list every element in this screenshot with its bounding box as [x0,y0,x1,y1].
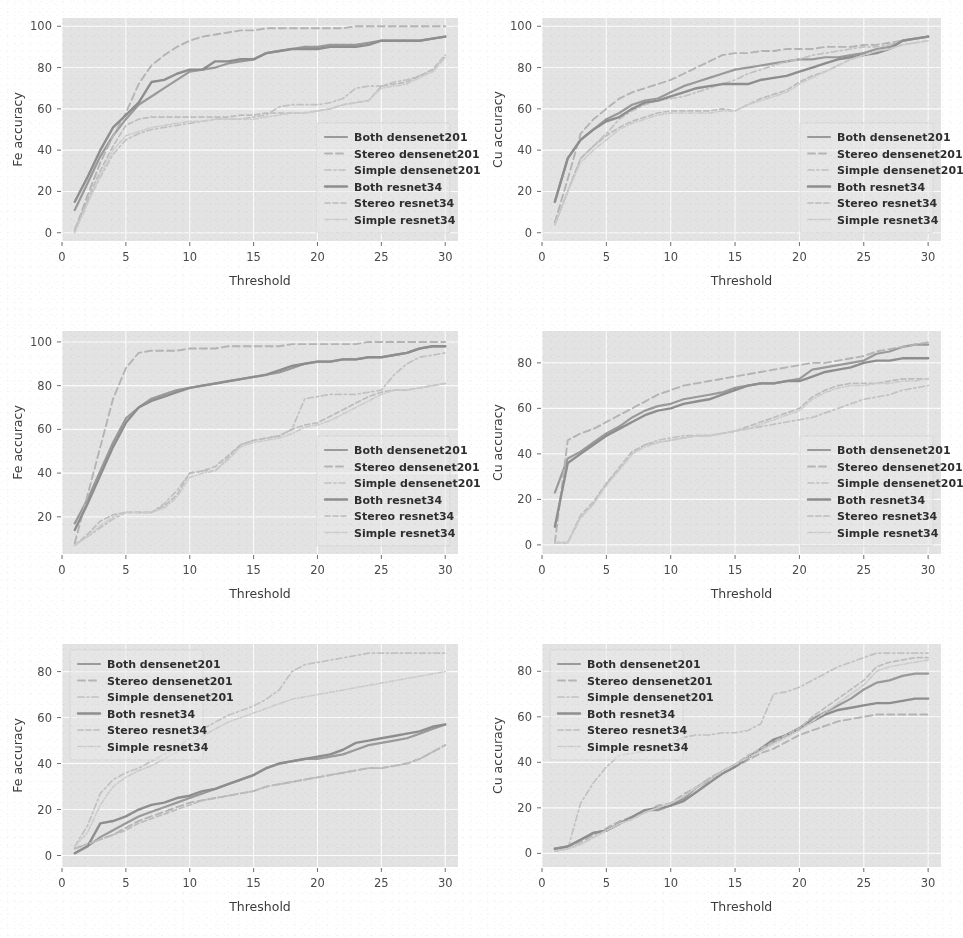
legend-label: Both resnet34 [107,708,195,721]
legend-label: Stereo resnet34 [587,724,688,737]
chart-panel-top-right: 051015202530020406080100ThresholdCu accu… [480,0,963,313]
legend-label: Both resnet34 [587,708,675,721]
x-tick-label: 20 [310,876,325,890]
x-tick-label: 0 [58,563,65,577]
x-tick-label: 5 [122,563,129,577]
y-tick-label: 60 [37,422,52,436]
y-tick-label: 40 [37,757,52,771]
x-tick-label: 5 [122,250,129,264]
y-tick-label: 40 [517,755,532,769]
legend-label: Stereo resnet34 [837,510,938,523]
legend-label: Stereo densenet201 [354,461,480,474]
legend-label: Stereo densenet201 [837,148,963,161]
x-tick-label: 5 [603,250,610,264]
y-tick-label: 100 [510,19,532,33]
y-axis-title: Cu accuracy [490,90,505,168]
x-tick-label: 30 [921,563,936,577]
legend-label: Stereo densenet201 [587,675,713,688]
legend-label: Both densenet201 [837,131,951,144]
legend-label: Both densenet201 [587,658,701,671]
x-tick-label: 10 [663,876,678,890]
y-tick-label: 0 [45,849,52,863]
x-tick-label: 25 [374,250,389,264]
y-tick-label: 80 [37,379,52,393]
y-tick-label: 80 [517,61,532,75]
legend-label: Simple resnet34 [354,214,456,227]
x-tick-label: 5 [122,876,129,890]
y-tick-label: 60 [517,102,532,116]
y-axis-title: Fe accuracy [10,405,25,480]
x-tick-label: 5 [603,563,610,577]
x-tick-label: 0 [58,876,65,890]
legend-label: Simple resnet34 [107,741,209,754]
legend-label: Simple resnet34 [354,527,456,540]
x-tick-label: 25 [374,563,389,577]
legend-label: Stereo resnet34 [354,197,455,210]
chart-panel-bottom-right: 051015202530020406080ThresholdCu accurac… [480,626,963,938]
x-tick-label: 15 [246,250,261,264]
y-axis-title: Fe accuracy [10,92,25,167]
x-tick-label: 15 [728,876,743,890]
legend-label: Stereo resnet34 [354,510,455,523]
x-tick-label: 0 [538,876,545,890]
figure-grid: 051015202530020406080100ThresholdFe accu… [0,0,963,938]
y-tick-label: 100 [30,19,52,33]
y-tick-label: 20 [517,492,532,506]
x-tick-label: 25 [374,876,389,890]
y-tick-label: 60 [37,102,52,116]
x-tick-label: 25 [856,563,871,577]
x-tick-label: 10 [182,563,197,577]
x-tick-label: 10 [182,250,197,264]
y-tick-label: 20 [37,510,52,524]
x-axis-title: Threshold [710,899,773,914]
x-tick-label: 20 [310,563,325,577]
y-tick-label: 20 [37,184,52,198]
x-tick-label: 10 [663,250,678,264]
legend-label: Both densenet201 [107,658,221,671]
y-tick-label: 100 [30,335,52,349]
legend-label: Simple densenet201 [837,164,963,177]
y-axis-title: Cu accuracy [490,403,505,481]
x-axis-title: Threshold [228,899,291,914]
y-tick-label: 40 [37,143,52,157]
x-tick-label: 30 [438,250,453,264]
x-tick-label: 20 [792,563,807,577]
legend-label: Simple resnet34 [837,527,939,540]
legend-label: Simple resnet34 [587,741,689,754]
legend-label: Simple densenet201 [354,164,480,177]
x-tick-label: 30 [921,876,936,890]
y-tick-label: 60 [517,710,532,724]
x-tick-label: 10 [663,563,678,577]
x-tick-label: 25 [856,876,871,890]
y-tick-label: 20 [517,801,532,815]
legend-label: Both resnet34 [354,181,442,194]
y-tick-label: 20 [517,184,532,198]
y-tick-label: 80 [517,356,532,370]
x-tick-label: 10 [182,876,197,890]
x-tick-label: 0 [538,250,545,264]
legend-label: Stereo densenet201 [837,461,963,474]
y-tick-label: 60 [37,711,52,725]
legend-label: Simple densenet201 [587,691,714,704]
legend-label: Simple resnet34 [837,214,939,227]
chart-panel-middle-right: 051015202530020406080ThresholdCu accurac… [480,313,963,626]
legend-label: Simple densenet201 [837,477,963,490]
y-tick-label: 0 [525,846,532,860]
x-tick-label: 15 [246,563,261,577]
legend-label: Stereo densenet201 [354,148,480,161]
x-tick-label: 15 [728,563,743,577]
x-axis-title: Threshold [228,586,291,601]
y-tick-label: 0 [525,226,532,240]
x-tick-label: 15 [728,250,743,264]
y-tick-label: 40 [517,143,532,157]
y-tick-label: 60 [517,401,532,415]
x-tick-label: 30 [438,876,453,890]
legend-label: Both resnet34 [837,181,925,194]
legend-label: Simple densenet201 [107,691,234,704]
legend-label: Stereo densenet201 [107,675,233,688]
y-tick-label: 40 [37,466,52,480]
x-tick-label: 20 [792,250,807,264]
x-tick-label: 20 [310,250,325,264]
x-tick-label: 15 [246,876,261,890]
legend-label: Both resnet34 [837,494,925,507]
